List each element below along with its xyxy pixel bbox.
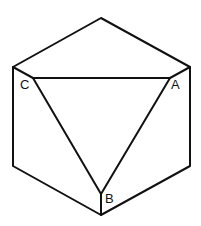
vertex-label-A: A [171, 77, 180, 92]
cube-diagram: C A B [0, 0, 201, 226]
vertex-label-C: C [20, 77, 29, 92]
cube-outline [13, 18, 190, 215]
triangle-side-BC [33, 78, 101, 194]
triangle-side-AB [101, 78, 170, 194]
vertex-label-B: B [105, 191, 114, 206]
